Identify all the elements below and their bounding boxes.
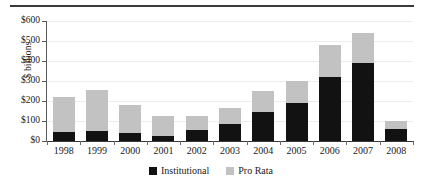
y-axis-tick-label: $200	[0, 96, 40, 106]
bar-segment-institutional	[252, 112, 274, 141]
x-axis-tick-label: 2003	[213, 145, 246, 157]
y-axis-tick	[42, 121, 47, 122]
y-axis-tick	[42, 21, 47, 22]
x-axis-tick	[147, 141, 148, 145]
y-axis-tick	[42, 101, 47, 102]
y-axis-tick-labels: $0$100$200$300$400$500$600	[0, 0, 40, 185]
x-axis-tick-label: 2004	[247, 145, 280, 157]
bar-segment-pro-rata	[152, 116, 174, 136]
y-axis-tick-label: $600	[0, 16, 40, 26]
bar-segment-pro-rata	[252, 91, 274, 112]
bar-group	[286, 81, 308, 141]
y-axis-tick-label: $300	[0, 76, 40, 86]
bar-segment-pro-rata	[352, 33, 374, 63]
bar-segment-institutional	[286, 103, 308, 141]
bar-segment-institutional	[385, 129, 407, 141]
x-axis-tick-label: 2008	[380, 145, 413, 157]
bar-segment-pro-rata	[119, 105, 141, 133]
x-axis-tick	[346, 141, 347, 145]
bar-group	[252, 91, 274, 141]
bar-group	[152, 116, 174, 141]
x-axis-tick	[213, 141, 214, 145]
bar-segment-institutional	[119, 133, 141, 141]
plot-area	[47, 21, 413, 141]
legend-item-institutional: Institutional	[149, 166, 209, 176]
bar-segment-pro-rata	[219, 108, 241, 124]
bar-segment-institutional	[352, 63, 374, 141]
y-axis-tick	[42, 61, 47, 62]
x-axis-tick	[180, 141, 181, 145]
gray-square-icon	[226, 167, 234, 175]
black-square-icon	[149, 167, 157, 175]
x-axis-tick-label: 2000	[114, 145, 147, 157]
bar-group	[352, 33, 374, 141]
x-axis-tick-label: 2001	[147, 145, 180, 157]
chart-figure: $ billions $0$100$200$300$400$500$600 19…	[0, 0, 422, 185]
y-axis-tick-label: $500	[0, 36, 40, 46]
bar-group	[86, 90, 108, 141]
y-axis-tick-label: $0	[0, 136, 40, 146]
x-axis-tick	[114, 141, 115, 145]
y-axis-tick	[42, 81, 47, 82]
bar-segment-institutional	[186, 130, 208, 141]
x-axis-tick	[247, 141, 248, 145]
legend-label-pro-rata: Pro Rata	[238, 166, 273, 176]
x-axis-tick	[313, 141, 314, 145]
x-axis-tick-label: 2002	[180, 145, 213, 157]
y-axis-tick	[42, 41, 47, 42]
x-axis-tick	[280, 141, 281, 145]
x-axis-line	[47, 141, 413, 142]
bar-segment-institutional	[86, 131, 108, 141]
y-axis-tick-label: $100	[0, 116, 40, 126]
bar-group	[53, 97, 75, 141]
bar-segment-institutional	[319, 77, 341, 141]
bar-group	[186, 116, 208, 141]
bar-group	[385, 121, 407, 141]
x-axis-tick	[80, 141, 81, 145]
bar-segment-pro-rata	[53, 97, 75, 132]
bar-segment-pro-rata	[86, 90, 108, 131]
bar-segment-pro-rata	[186, 116, 208, 130]
x-axis-tick	[47, 141, 48, 145]
bar-segment-pro-rata	[286, 81, 308, 103]
bar-group	[219, 108, 241, 141]
gridline	[47, 21, 413, 22]
x-axis-tick-label: 1999	[80, 145, 113, 157]
bar-segment-pro-rata	[319, 45, 341, 77]
chart-legend: Institutional Pro Rata	[0, 166, 422, 176]
legend-label-institutional: Institutional	[161, 166, 209, 176]
bar-segment-pro-rata	[385, 121, 407, 129]
x-axis-tick-label: 2006	[313, 145, 346, 157]
x-axis-tick	[413, 141, 414, 145]
bar-group	[319, 45, 341, 141]
y-axis-tick-label: $400	[0, 56, 40, 66]
x-axis-tick-labels: 1998199920002001200220032004200520062007…	[47, 145, 413, 159]
x-axis-tick-label: 2007	[346, 145, 379, 157]
x-axis-tick-label: 1998	[47, 145, 80, 157]
x-axis-tick	[380, 141, 381, 145]
top-rule-divider	[10, 5, 414, 7]
bar-segment-institutional	[219, 124, 241, 141]
legend-item-pro-rata: Pro Rata	[226, 166, 273, 176]
x-axis-tick-label: 2005	[280, 145, 313, 157]
bar-group	[119, 105, 141, 141]
bar-segment-institutional	[53, 132, 75, 141]
